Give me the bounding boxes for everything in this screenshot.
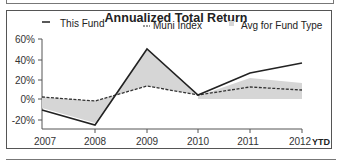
avg-fund-type-area (42, 50, 302, 123)
legend-avg-swatch (229, 21, 234, 26)
legend: This Fund Muni Index Avg for Fund Type (42, 18, 323, 31)
chart: Annualized Total Return This Fund Muni I… (0, 0, 341, 163)
y-tick-0: 0% (21, 94, 36, 105)
legend-index-label: Muni Index (153, 20, 202, 31)
legend-avg-label: Avg for Fund Type (241, 20, 323, 31)
ytd-label: YTD (312, 137, 331, 147)
legend-fund-label: This Fund (60, 18, 104, 29)
x-tick-2008: 2008 (84, 136, 107, 147)
x-tick-2010: 2010 (187, 136, 210, 147)
x-tick-2009: 2009 (136, 136, 159, 147)
y-tick-40: 40% (15, 55, 35, 66)
y-axis: 60% 40% 20% 0% -20% (12, 34, 42, 129)
y-tick-60: 60% (15, 34, 35, 45)
y-tick-20: 20% (15, 75, 35, 86)
x-axis: 2007 2008 2009 2010 2011 2012 YTD (34, 129, 331, 147)
x-tick-2011: 2011 (237, 136, 259, 147)
y-tick-neg20: -20% (12, 115, 35, 126)
x-tick-2012: 2012 (289, 136, 312, 147)
x-tick-2007: 2007 (34, 136, 57, 147)
